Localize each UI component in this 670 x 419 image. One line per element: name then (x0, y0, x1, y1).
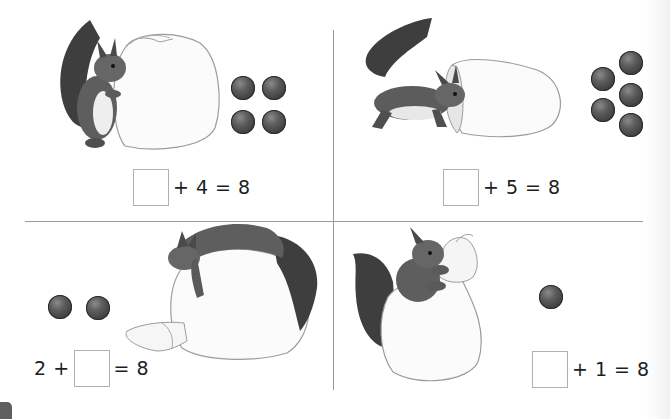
page-corner-tab (0, 402, 12, 419)
counting-ball (539, 285, 563, 309)
answer-box[interactable] (532, 351, 568, 388)
exercise-panel-bottom-right: + 1 = 8 (0, 0, 670, 419)
squirrel-holding-sack-illustration (348, 222, 508, 387)
worksheet-page: + 4 = 8 + 5 = 8 (0, 0, 670, 419)
equation-text: + 1 = 8 (568, 360, 654, 379)
equation: + 1 = 8 (532, 351, 654, 388)
